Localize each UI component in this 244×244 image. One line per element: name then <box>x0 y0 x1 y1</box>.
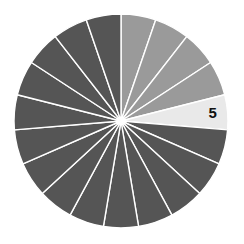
pie-chart: 5 <box>0 0 244 244</box>
pie-chart-svg: 5 <box>0 0 244 244</box>
pie-slices <box>14 14 228 228</box>
slice-label: 5 <box>209 104 217 121</box>
pie-labels: 5 <box>209 104 217 121</box>
